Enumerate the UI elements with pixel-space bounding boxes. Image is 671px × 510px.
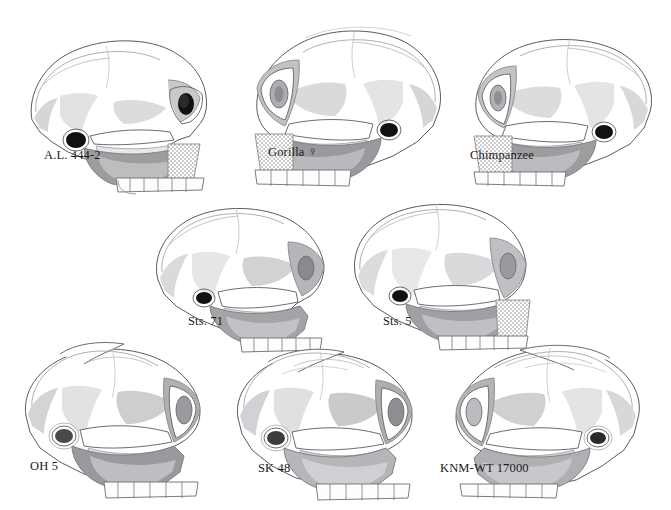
caption-gorilla-label: Gorilla	[268, 145, 304, 159]
skull-drawing-sts-5	[340, 198, 540, 344]
caption-knm-wt-17000: KNM-WT 17000	[440, 461, 529, 476]
caption-sk-48: SK 48	[258, 461, 290, 476]
caption-al-444-2: A.L. 444-2	[44, 148, 101, 163]
specimen-knm-wt-17000[interactable]: KNM-WT 17000	[430, 344, 662, 490]
specimen-oh-5[interactable]: OH 5	[8, 338, 218, 488]
specimen-sts-5[interactable]: Sts. 5	[340, 198, 540, 344]
skull-drawing-sts-71	[140, 198, 340, 344]
specimen-gorilla-female[interactable]: Gorilla ♀	[236, 22, 451, 178]
specimen-chimpanzee[interactable]: Chimpanzee	[452, 26, 664, 178]
caption-oh-5: OH 5	[30, 459, 58, 474]
figure-plate: A.L. 444-2	[0, 0, 671, 510]
caption-sts-5: Sts. 5	[383, 314, 412, 329]
caption-chimpanzee: Chimpanzee	[470, 148, 534, 163]
specimen-al-444-2[interactable]: A.L. 444-2	[18, 28, 228, 178]
skull-drawing-sk-48	[222, 344, 428, 490]
caption-sts-71: Sts. 71	[188, 314, 223, 329]
female-symbol-icon: ♀	[308, 144, 318, 159]
specimen-sts-71[interactable]: Sts. 71	[140, 198, 340, 344]
caption-gorilla-female: Gorilla ♀	[268, 144, 318, 160]
specimen-sk-48[interactable]: SK 48	[222, 344, 428, 490]
